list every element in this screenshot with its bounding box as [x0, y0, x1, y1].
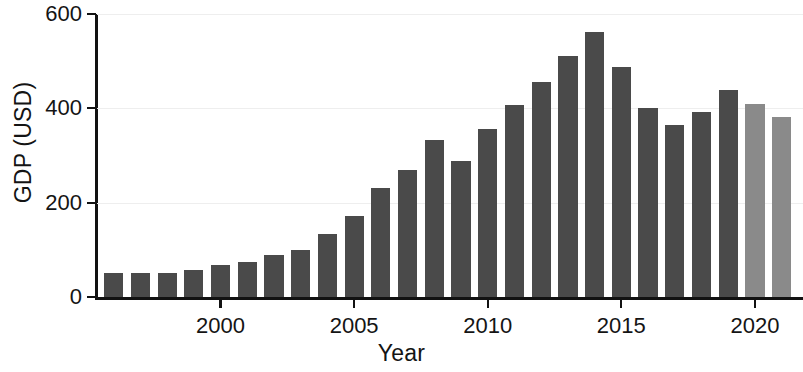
- x-tick-label: 2015: [597, 313, 646, 339]
- x-axis-title: Year: [0, 340, 803, 367]
- bar: [131, 273, 150, 297]
- bar: [425, 140, 444, 297]
- bar: [745, 104, 764, 297]
- bar: [184, 270, 203, 297]
- y-tick-label: 400: [45, 95, 82, 121]
- y-tick-label: 600: [45, 1, 82, 27]
- x-tick-mark: [219, 299, 221, 308]
- bar: [585, 32, 604, 297]
- bar: [451, 161, 470, 297]
- x-tick-label: 2005: [330, 313, 379, 339]
- x-tick-mark: [353, 299, 355, 308]
- chart-figure: GDP (USD) Year 0200400600 20002005201020…: [0, 0, 803, 372]
- bar-series: [95, 14, 803, 297]
- bar: [558, 56, 577, 297]
- y-tick-label: 0: [70, 284, 82, 310]
- bar: [612, 67, 631, 297]
- bar: [772, 117, 791, 297]
- bar: [291, 250, 310, 297]
- x-tick-label: 2020: [730, 313, 779, 339]
- bar: [158, 273, 177, 297]
- bar: [264, 255, 283, 297]
- bar: [318, 234, 337, 297]
- bar: [532, 82, 551, 297]
- x-tick-mark: [487, 299, 489, 308]
- x-tick-label: 2000: [196, 313, 245, 339]
- bar: [398, 170, 417, 297]
- bar: [505, 105, 524, 297]
- bar: [719, 90, 738, 297]
- bar: [692, 112, 711, 297]
- bar: [371, 188, 390, 297]
- bar: [345, 216, 364, 297]
- x-tick-mark: [620, 299, 622, 308]
- bar: [238, 262, 257, 297]
- y-tick-label: 200: [45, 190, 82, 216]
- x-tick-label: 2010: [463, 313, 512, 339]
- x-axis-line: [95, 297, 803, 300]
- x-tick-mark: [754, 299, 756, 308]
- bar: [211, 265, 230, 297]
- bar: [104, 273, 123, 297]
- bar: [665, 125, 684, 297]
- plot-area: 0200400600 20002005201020152020: [95, 14, 803, 297]
- bar: [478, 129, 497, 297]
- bar: [638, 108, 657, 297]
- y-axis-title: GDP (USD): [10, 28, 37, 258]
